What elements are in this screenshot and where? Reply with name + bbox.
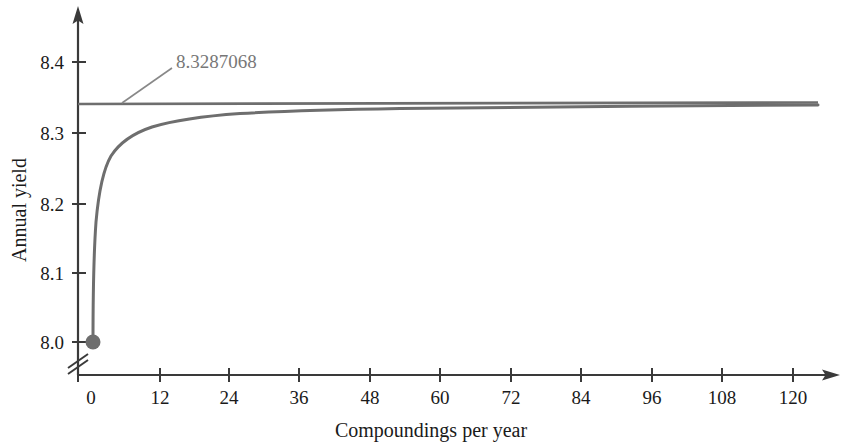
asymptote-annotation-label: 8.3287068 xyxy=(176,51,257,72)
x-tick-label-120: 120 xyxy=(779,387,808,408)
x-tick-label-24: 24 xyxy=(220,387,240,408)
y-tick-label-8-3: 8.3 xyxy=(40,123,64,144)
x-tick-label-36: 36 xyxy=(290,387,309,408)
x-tick-label-72: 72 xyxy=(502,387,521,408)
chart-svg: 8.4 8.3 8.2 8.1 8.0 0 12 24 36 48 60 72 xyxy=(0,0,847,446)
x-tick-label-48: 48 xyxy=(361,387,380,408)
yield-curve xyxy=(93,105,818,342)
x-tick-label-0: 0 xyxy=(86,387,96,408)
x-tick-label-96: 96 xyxy=(643,387,662,408)
y-tick-label-8-0: 8.0 xyxy=(40,332,64,353)
x-tick-label-108: 108 xyxy=(708,387,737,408)
x-tick-label-12: 12 xyxy=(151,387,170,408)
asymptote-annotation: 8.3287068 xyxy=(122,51,257,103)
asymptote-line xyxy=(78,103,818,105)
x-tick-label-84: 84 xyxy=(572,387,592,408)
y-axis-title: Annual yield xyxy=(8,158,31,262)
y-tick-group: 8.4 8.3 8.2 8.1 8.0 xyxy=(40,52,86,353)
curve-start-marker xyxy=(86,335,101,350)
y-tick-label-8-1: 8.1 xyxy=(40,263,64,284)
annotation-leader-line xyxy=(122,68,172,103)
chart-figure: 8.4 8.3 8.2 8.1 8.0 0 12 24 36 48 60 72 xyxy=(0,0,847,446)
y-tick-label-8-2: 8.2 xyxy=(40,194,64,215)
x-tick-label-60: 60 xyxy=(431,387,450,408)
y-tick-label-8-4: 8.4 xyxy=(40,52,64,73)
x-axis-title: Compoundings per year xyxy=(335,419,528,442)
